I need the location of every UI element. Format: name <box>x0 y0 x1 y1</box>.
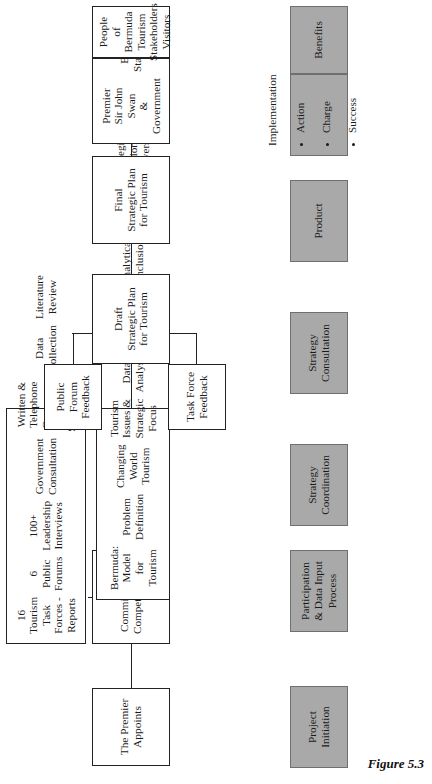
connector-premier-to-commission <box>131 644 132 688</box>
node-item-government-consultation: Government Consultation <box>33 435 58 498</box>
node-public-forum-feedback[interactable]: Public Forum Feedback <box>44 364 102 430</box>
stage-strategy-coordination-label: Strategy Coordination <box>306 455 333 515</box>
stage-strategy-consultation-label: Strategy Consultation <box>306 324 333 382</box>
stage-strategy-coordination: Strategy Coordination <box>290 444 348 526</box>
node-item-problem-definition: Problem Definition <box>120 491 145 543</box>
node-draft-strategic-plan-label: Draft Strategic Plan for Tourism <box>112 287 150 351</box>
node-task-force-feedback[interactable]: Task Force Feedback <box>168 364 226 430</box>
stage-strategy-consultation: Strategy Consultation <box>290 312 348 394</box>
stage-product: Product <box>290 180 348 262</box>
node-visitors: Visitors <box>160 12 173 53</box>
node-item-tourism-task-forces: 16 Tourism Task Forces - Reports <box>15 594 78 637</box>
node-task-force-feedback-label: Task Force Feedback <box>184 372 210 422</box>
stage-implementation-bullet-success: Success <box>346 98 359 133</box>
node-item-leadership-interviews: 100+ Leadership Interviews <box>27 498 65 554</box>
connector-publicforum-to-draft <box>73 334 74 364</box>
stage-project-initiation: Project Initiation <box>290 686 348 768</box>
stage-implementation-bullet-action: Action <box>294 98 307 133</box>
node-premier-appoints[interactable]: The Premier Appoints <box>92 688 170 766</box>
node-participation-group[interactable]: 16 Tourism Task Forces - Reports 6 Publi… <box>6 408 86 644</box>
node-people-of-bermuda: People of Bermuda <box>97 8 135 55</box>
node-item-literature-review: Literature Review <box>33 272 58 322</box>
node-stakeholders-group[interactable]: People of Bermuda Tourism Stakeholders V… <box>92 6 170 58</box>
node-coordination-group[interactable]: Bermuda: Model for Tourism Problem Defin… <box>96 408 170 600</box>
figure-canvas: The Premier Appoints Commission on Compe… <box>0 0 432 784</box>
figure-caption: Figure 5.3 <box>368 756 424 772</box>
node-item-public-forums: 6 Public Forums <box>27 554 65 594</box>
node-final-strategic-plan-label: Final Strategic Plan for Tourism <box>112 168 150 232</box>
node-item-tourism-issues-strategic-focus: Tourism Issues & Strategic Focus <box>108 396 158 442</box>
node-item-changing-world-tourism: Changing World Tourism <box>114 441 152 491</box>
node-government-group[interactable]: Premier Sir John Swan & Government Bermu… <box>92 58 170 144</box>
node-draft-strategic-plan[interactable]: Draft Strategic Plan for Tourism <box>92 274 170 364</box>
stage-implementation-bullets: Action Charge Success <box>281 98 373 146</box>
stage-implementation-bullet-charge: Charge <box>320 98 333 133</box>
node-premier-government: Premier Sir John Swan & Government <box>100 75 163 137</box>
stage-participation: Participation & Data Input Process <box>290 550 348 632</box>
stage-benefits-label: Benefits <box>312 21 325 59</box>
connector-taskforce-to-draft <box>196 334 197 364</box>
node-public-forum-feedback-label: Public Forum Feedback <box>54 369 92 425</box>
stage-project-initiation-label: Project Initiation <box>306 706 333 747</box>
node-tourism-stakeholders: Tourism Stakeholders <box>135 0 160 64</box>
node-final-strategic-plan[interactable]: Final Strategic Plan for Tourism <box>92 156 170 244</box>
node-item-bermuda-model-for-tourism: Bermuda: Model for Tourism <box>108 543 158 593</box>
stage-product-label: Product <box>312 203 325 238</box>
stage-benefits: Benefits <box>290 6 348 74</box>
stage-participation-label: Participation & Data Input Process <box>299 561 339 621</box>
stage-implementation: Implementation Action Charge Success <box>290 74 348 156</box>
stage-implementation-title: Implementation <box>266 75 279 146</box>
node-premier-appoints-label: The Premier Appoints <box>118 699 144 756</box>
